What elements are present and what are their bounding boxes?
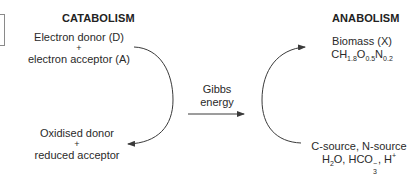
catabolism-arc-arrow: [128, 47, 173, 144]
diagram-arrows: [0, 0, 419, 174]
anabolism-arc-arrow: [262, 47, 305, 143]
